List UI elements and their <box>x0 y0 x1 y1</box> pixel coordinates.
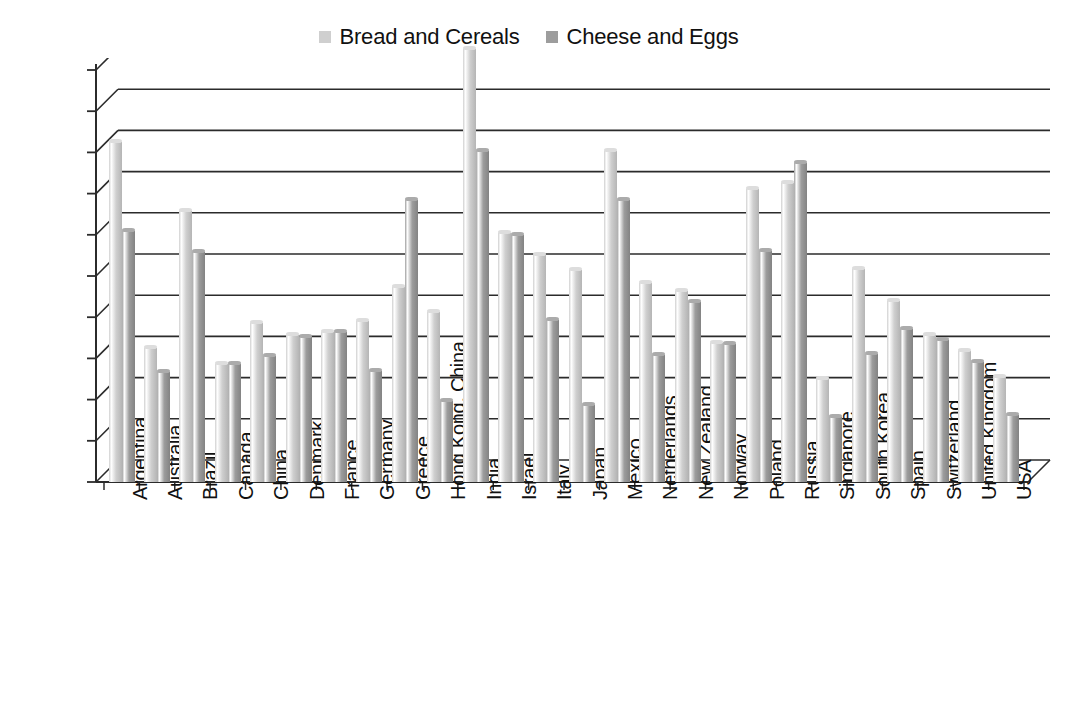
bar[interactable] <box>109 142 122 482</box>
bar[interactable] <box>887 301 900 482</box>
bar[interactable] <box>476 151 489 482</box>
bar-cap <box>936 337 949 341</box>
bar[interactable] <box>511 235 524 482</box>
bar[interactable] <box>356 321 369 483</box>
bar-cap <box>639 280 652 284</box>
bar-face <box>440 401 453 482</box>
bar-face <box>675 291 688 482</box>
bar[interactable] <box>617 200 630 482</box>
bar[interactable] <box>321 332 334 482</box>
bar-face <box>109 142 122 482</box>
bar-face <box>250 323 263 482</box>
bar[interactable] <box>816 379 829 482</box>
bar[interactable] <box>688 302 701 482</box>
bar[interactable] <box>865 354 878 482</box>
bar[interactable] <box>971 362 984 482</box>
bar-face <box>215 364 228 482</box>
bar[interactable] <box>192 252 205 482</box>
bar-face <box>604 151 617 482</box>
bar-group <box>852 269 878 482</box>
bar[interactable] <box>263 356 276 482</box>
bar[interactable] <box>675 291 688 482</box>
bar-cap <box>617 197 630 201</box>
bar[interactable] <box>639 283 652 482</box>
bar[interactable] <box>652 355 665 482</box>
bar[interactable] <box>334 332 347 482</box>
bar-cap <box>179 208 192 212</box>
bar[interactable] <box>781 183 794 482</box>
bar[interactable] <box>936 340 949 482</box>
bar-group <box>215 364 241 482</box>
bar-cap <box>971 359 984 363</box>
bar-cap <box>652 352 665 356</box>
bar-face <box>900 329 913 482</box>
bar-face <box>652 355 665 482</box>
bar-cap <box>463 46 476 50</box>
bar-cap <box>250 320 263 324</box>
bar[interactable] <box>794 163 807 482</box>
bar-group <box>392 200 418 482</box>
bar[interactable] <box>122 231 135 482</box>
bar-group <box>675 291 701 482</box>
chart-root: Bread and Cereals Cheese and Eggs 0.00%0… <box>0 0 1067 710</box>
bar-cap <box>675 288 688 292</box>
bar[interactable] <box>723 344 736 482</box>
bar[interactable] <box>463 49 476 482</box>
bar[interactable] <box>369 371 382 482</box>
bar[interactable] <box>604 151 617 482</box>
bar[interactable] <box>546 320 559 482</box>
bar[interactable] <box>533 255 546 482</box>
bar-cap <box>321 329 334 333</box>
bar-face <box>179 211 192 482</box>
legend-item-cheese-and-eggs[interactable]: Cheese and Eggs <box>546 24 739 50</box>
bar[interactable] <box>1006 415 1019 482</box>
bar[interactable] <box>759 251 772 482</box>
bar[interactable] <box>427 312 440 482</box>
bar[interactable] <box>498 233 511 482</box>
bar[interactable] <box>958 351 971 482</box>
bar-cap <box>569 267 582 271</box>
bar[interactable] <box>852 269 865 482</box>
bar[interactable] <box>829 417 842 482</box>
bar-face <box>852 269 865 482</box>
bar-face <box>569 270 582 482</box>
bar-face <box>405 200 418 482</box>
bar-face <box>334 332 347 482</box>
bar[interactable] <box>392 287 405 482</box>
bar-cap <box>498 230 511 234</box>
bar[interactable] <box>215 364 228 482</box>
bar-face <box>582 405 595 482</box>
bar[interactable] <box>405 200 418 482</box>
bar[interactable] <box>157 372 170 482</box>
bar[interactable] <box>582 405 595 482</box>
bar[interactable] <box>299 337 312 482</box>
bar[interactable] <box>900 329 913 482</box>
bar-group <box>781 163 807 482</box>
bar[interactable] <box>144 348 157 482</box>
bar[interactable] <box>286 335 299 482</box>
bar-cap <box>533 252 546 256</box>
bar[interactable] <box>746 189 759 482</box>
bar[interactable] <box>250 323 263 482</box>
bar-face <box>971 362 984 482</box>
bar[interactable] <box>228 364 241 482</box>
bar-cap <box>923 332 936 336</box>
bar[interactable] <box>923 335 936 482</box>
bar-group <box>569 270 595 482</box>
bar[interactable] <box>569 270 582 482</box>
bar-cap <box>993 374 1006 378</box>
bar-group <box>179 211 205 482</box>
legend-item-bread-and-cereals[interactable]: Bread and Cereals <box>319 24 520 50</box>
bar-face <box>286 335 299 482</box>
bar-cap <box>356 318 369 322</box>
bar[interactable] <box>440 401 453 482</box>
bar[interactable] <box>179 211 192 482</box>
bar-group <box>887 301 913 482</box>
bar-face <box>321 332 334 482</box>
bar[interactable] <box>993 377 1006 482</box>
bar[interactable] <box>710 343 723 482</box>
bar-cap <box>299 334 312 338</box>
legend-swatch-bread-and-cereals <box>319 31 331 43</box>
chart-legend: Bread and Cereals Cheese and Eggs <box>0 24 1067 50</box>
bar-face <box>533 255 546 482</box>
